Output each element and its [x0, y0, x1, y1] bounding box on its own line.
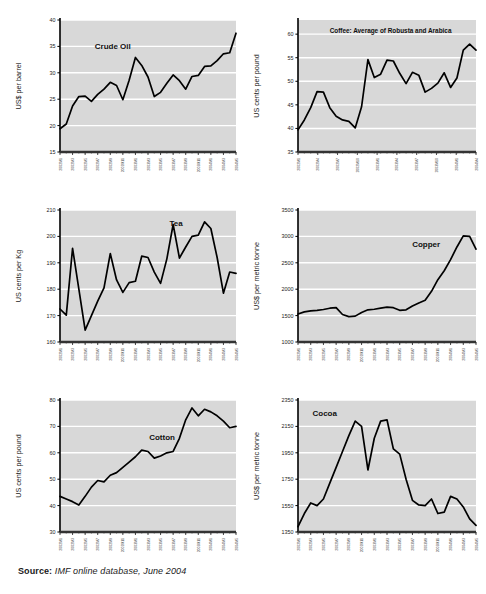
y-axis-label-tea: US cents per Kg — [14, 250, 23, 302]
x-tick-label-cotton: 2004M1 — [209, 538, 213, 551]
panel-title-coffee: Coffee: Average of Robusta and Arabica — [330, 27, 452, 35]
chart-crude-oil: 152025303540US$ per barrel2002M12002M320… — [8, 10, 246, 200]
x-tick-label-copper: 2003M9 — [424, 348, 428, 361]
y-tick-label-cocoa: 2350 — [282, 397, 294, 403]
x-tick-label-copper: 2002M7 — [335, 348, 339, 361]
plot-background-crude-oil — [60, 20, 236, 152]
y-tick-label-cotton: 70 — [50, 423, 56, 429]
plot-background-tea — [60, 210, 236, 342]
y-tick-label-coffee: 55 — [288, 55, 294, 61]
series-label-cocoa: Cocoa — [312, 409, 337, 418]
x-tick-label-crude-oil: 2004M3 — [222, 158, 226, 171]
series-label-crude-oil: Crude Oil — [95, 42, 131, 51]
x-tick-label-copper: 2003M3 — [386, 348, 390, 361]
chart-cotton: 304050607080US cents per pound2002M12002… — [8, 390, 246, 580]
x-tick-label-copper: 2003M1 — [373, 348, 377, 361]
figure-top-title — [0, 0, 486, 2]
commodity-price-figure: 152025303540US$ per barrel2002M12002M320… — [0, 0, 486, 594]
y-tick-label-copper: 1000 — [282, 339, 294, 345]
x-tick-label-cocoa: 2002M11 — [360, 538, 364, 552]
y-tick-label-cotton: 60 — [50, 450, 56, 456]
x-tick-label-copper: 2004M3 — [462, 348, 466, 361]
chart-panel-crude-oil: 152025303540US$ per barrel2002M12002M320… — [8, 10, 246, 200]
x-tick-label-tea: 2003M7 — [172, 348, 176, 361]
y-tick-label-tea: 170 — [47, 313, 56, 319]
y-axis-label-coffee: US cents per pound — [252, 54, 261, 118]
x-tick-label-cotton: 2003M3 — [147, 538, 151, 551]
y-tick-label-copper: 2500 — [282, 260, 294, 266]
plot-background-cotton — [60, 400, 236, 532]
x-tick-label-coffee: 2003M4 — [395, 158, 399, 171]
series-label-cotton: Cotton — [149, 433, 175, 442]
y-tick-label-cotton: 40 — [50, 503, 56, 509]
y-tick-label-tea: 210 — [47, 207, 56, 213]
chart-tea: 160170180190200210US cents per Kg2002M12… — [8, 200, 246, 390]
y-tick-label-cocoa: 1350 — [282, 529, 294, 535]
y-tick-label-tea: 160 — [47, 339, 56, 345]
y-tick-label-crude-oil: 30 — [50, 70, 56, 76]
x-tick-label-cotton: 2003M11 — [197, 538, 201, 552]
x-tick-label-copper: 2002M1 — [297, 348, 301, 361]
x-tick-label-coffee: 2002M1 — [297, 158, 301, 171]
x-tick-label-coffee: 2002M10 — [356, 158, 360, 173]
x-tick-label-copper: 2002M11 — [360, 348, 364, 362]
y-tick-label-coffee: 60 — [288, 31, 294, 37]
x-tick-label-cotton: 2002M5 — [84, 538, 88, 551]
x-tick-label-tea: 2002M1 — [59, 348, 63, 361]
y-tick-label-cotton: 30 — [50, 529, 56, 535]
y-tick-label-crude-oil: 15 — [50, 149, 56, 155]
chart-panel-cocoa: 135015501750195021502350US$ per metric t… — [246, 390, 486, 580]
x-tick-label-copper: 2004M1 — [449, 348, 453, 361]
x-tick-label-cotton: 2002M9 — [109, 538, 113, 551]
x-tick-label-copper: 2002M3 — [309, 348, 313, 361]
x-tick-label-cocoa: 2003M7 — [411, 538, 415, 551]
x-tick-label-crude-oil: 2004M5 — [235, 158, 239, 171]
y-tick-label-copper: 3000 — [282, 233, 294, 239]
y-axis-label-crude-oil: US$ per barrel — [14, 62, 23, 109]
plot-background-copper — [298, 210, 476, 342]
x-tick-label-copper: 2003M11 — [436, 348, 440, 362]
x-tick-label-crude-oil: 2003M5 — [159, 158, 163, 171]
source-label: Source: — [18, 566, 52, 576]
y-tick-label-coffee: 40 — [288, 125, 294, 131]
chart-panel-tea: 160170180190200210US cents per Kg2002M12… — [8, 200, 246, 390]
x-tick-label-tea: 2004M1 — [209, 348, 213, 361]
x-tick-label-cotton: 2004M3 — [222, 538, 226, 551]
x-tick-label-crude-oil: 2002M7 — [96, 158, 100, 171]
y-tick-label-cocoa: 2150 — [282, 423, 294, 429]
x-tick-label-tea: 2002M9 — [109, 348, 113, 361]
y-tick-label-tea: 180 — [47, 286, 56, 292]
y-tick-label-crude-oil: 40 — [50, 17, 56, 23]
x-tick-label-copper: 2003M7 — [411, 348, 415, 361]
x-tick-label-cotton: 2003M5 — [159, 538, 163, 551]
x-tick-label-crude-oil: 2003M7 — [172, 158, 176, 171]
x-tick-label-crude-oil: 2003M1 — [134, 158, 138, 171]
y-tick-label-tea: 200 — [47, 233, 56, 239]
series-label-tea: Tea — [170, 219, 184, 228]
x-tick-label-cotton: 2002M7 — [96, 538, 100, 551]
x-tick-label-copper: 2004M5 — [475, 348, 479, 361]
x-tick-label-crude-oil: 2003M3 — [147, 158, 151, 171]
chart-panel-coffee: 354045505560US cents per pound2002M12002… — [246, 10, 486, 200]
y-tick-label-crude-oil: 25 — [50, 96, 56, 102]
x-tick-label-coffee: 2003M7 — [415, 158, 419, 171]
y-axis-label-cotton: US cents per pound — [14, 434, 23, 498]
x-tick-label-cotton: 2003M7 — [172, 538, 176, 551]
x-tick-label-tea: 2002M7 — [96, 348, 100, 361]
y-axis-label-cocoa: US$ per metric tonne — [252, 432, 261, 500]
x-tick-label-tea: 2004M3 — [222, 348, 226, 361]
x-tick-label-tea: 2003M9 — [184, 348, 188, 361]
x-tick-label-tea: 2003M11 — [197, 348, 201, 362]
x-tick-label-coffee: 2002M7 — [336, 158, 340, 171]
x-tick-label-copper: 2003M5 — [398, 348, 402, 361]
x-tick-label-coffee: 2004M1 — [455, 158, 459, 171]
source-value: IMF online database, June 2004 — [52, 566, 186, 576]
x-tick-label-crude-oil: 2002M1 — [59, 158, 63, 171]
y-tick-label-copper: 2000 — [282, 286, 294, 292]
series-label-copper: Copper — [412, 240, 440, 249]
x-tick-label-cocoa: 2002M1 — [297, 538, 301, 551]
chart-coffee: 354045505560US cents per pound2002M12002… — [246, 10, 486, 200]
y-tick-label-cocoa: 1950 — [282, 450, 294, 456]
chart-cocoa: 135015501750195021502350US$ per metric t… — [246, 390, 486, 580]
x-tick-label-cotton: 2002M3 — [71, 538, 75, 551]
